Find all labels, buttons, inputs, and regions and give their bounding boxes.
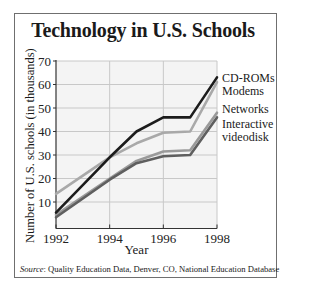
y-tick-label: 10 (38, 195, 51, 210)
y-tick-label: 50 (38, 101, 51, 116)
source-text: : Quality Education Data, Denver, CO, Na… (44, 264, 280, 274)
y-axis-label: Number of U.S. schools (in thousands) (23, 53, 38, 243)
y-tick-label: 40 (38, 124, 51, 139)
y-tick-label: 30 (38, 148, 51, 163)
legend-label-networks: Networks (222, 103, 269, 115)
legend-label-modems: Modems (222, 85, 264, 97)
legend-label-interactive: Interactive (222, 118, 273, 130)
source-note: Source: Quality Education Data, Denver, … (20, 264, 279, 274)
x-axis-label: Year (56, 242, 217, 258)
legend-label-cd-roms: CD-ROMs (222, 72, 275, 84)
legend-label-videodisk: videodisk (222, 131, 269, 143)
y-tick-label: 70 (38, 54, 51, 69)
y-tick-label: 20 (38, 171, 51, 186)
source-label: Source (20, 264, 44, 274)
y-tick-label: 60 (38, 77, 51, 92)
